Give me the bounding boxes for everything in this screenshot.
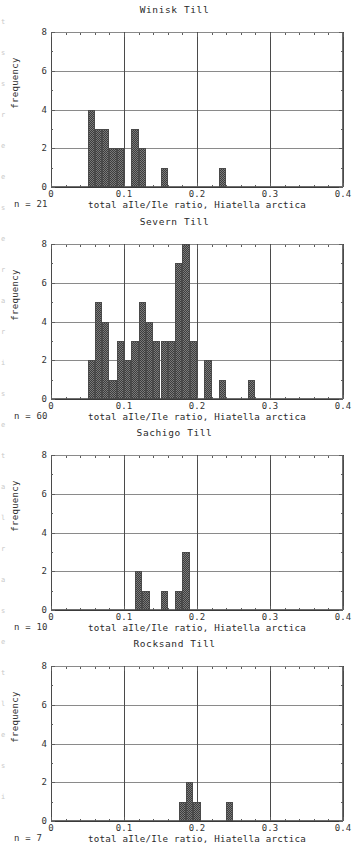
gridline-vertical <box>343 244 344 399</box>
x-tick-label: 0 <box>31 824 71 833</box>
x-tick-label: 0.4 <box>323 402 356 411</box>
x-tick-label: 0.1 <box>104 402 144 411</box>
y-tick-label: 2 <box>27 778 47 787</box>
histogram-bar <box>142 591 149 610</box>
histogram-bar <box>193 802 200 821</box>
y-tick-label: 8 <box>27 240 47 249</box>
plot-area: 0246800.10.20.30.4frequencytotal aIle/Il… <box>0 0 349 211</box>
y-tick-label: 2 <box>27 356 47 365</box>
gridline-vertical <box>343 666 344 821</box>
sample-size-label: n = 60 <box>14 411 48 421</box>
histogram-bar <box>146 322 153 400</box>
histogram-bar <box>248 380 255 399</box>
bar-series <box>51 244 343 399</box>
histogram-bar <box>182 552 189 610</box>
x-tick-label: 0.2 <box>177 613 217 622</box>
y-axis-title: frequency <box>10 48 20 118</box>
x-tick <box>343 395 344 399</box>
y-axis-title: frequency <box>10 471 20 541</box>
y-tick-label: 6 <box>27 490 47 499</box>
x-tick-label: 0.2 <box>177 190 217 199</box>
x-tick-label: 0.4 <box>323 190 356 199</box>
histogram-bar <box>124 360 131 399</box>
histogram-bar <box>102 129 109 187</box>
x-tick-label: 0.3 <box>250 613 290 622</box>
gridline-horizontal <box>51 187 343 188</box>
histogram-bar <box>175 591 182 610</box>
x-tick <box>343 245 344 249</box>
x-tick-label: 0.1 <box>104 613 144 622</box>
y-tick-label: 2 <box>27 144 47 153</box>
x-tick-label: 0 <box>31 402 71 411</box>
y-tick-label: 6 <box>27 701 47 710</box>
y-tick <box>339 821 343 822</box>
histogram-bar <box>226 802 233 821</box>
x-tick-label: 0.4 <box>323 824 356 833</box>
bar-series <box>51 666 343 821</box>
x-tick-label: 0.4 <box>323 613 356 622</box>
x-tick <box>343 33 344 37</box>
x-tick-label: 0.2 <box>177 402 217 411</box>
gridline-horizontal <box>51 610 343 611</box>
x-tick-label: 0.1 <box>104 824 144 833</box>
histogram-panel: Sachigo Till0246800.10.20.30.4frequencyt… <box>0 423 349 634</box>
y-tick-label: 4 <box>27 318 47 327</box>
y-tick <box>339 399 343 400</box>
histogram-bar <box>117 148 124 187</box>
gridline-horizontal <box>51 821 343 822</box>
y-tick <box>51 610 55 611</box>
plot-area: 0246800.10.20.30.4frequencytotal aIle/Il… <box>0 634 349 845</box>
histogram-bar <box>219 380 226 399</box>
gridline-horizontal <box>51 399 343 400</box>
sample-size-label: n = 10 <box>14 622 48 632</box>
plot-area: 0246800.10.20.30.4frequencytotal aIle/Il… <box>0 212 349 423</box>
sample-size-label: n = 7 <box>14 833 42 843</box>
y-axis-title: frequency <box>10 260 20 330</box>
y-tick-label: 8 <box>27 662 47 671</box>
plot-area: 0246800.10.20.30.4frequencytotal aIle/Il… <box>0 423 349 634</box>
histogram-bar <box>219 168 226 187</box>
x-tick <box>343 606 344 610</box>
x-tick-label: 0 <box>31 190 71 199</box>
x-axis-title: total aIle/Ile ratio, Hiatella arctica <box>51 199 343 210</box>
histogram-bar <box>95 302 102 399</box>
histogram-bar <box>109 148 116 187</box>
x-axis-title: total aIle/Ile ratio, Hiatella arctica <box>51 622 343 633</box>
x-axis-title: total aIle/Ile ratio, Hiatella arctica <box>51 411 343 422</box>
y-tick <box>339 187 343 188</box>
y-tick-label: 4 <box>27 740 47 749</box>
y-tick-label: 8 <box>27 28 47 37</box>
x-tick <box>343 183 344 187</box>
histogram-bar <box>186 782 193 821</box>
y-tick <box>339 610 343 611</box>
histogram-bar <box>88 360 95 399</box>
histogram-bar <box>135 571 142 610</box>
x-tick-label: 0.3 <box>250 190 290 199</box>
histogram-bar <box>161 591 168 610</box>
x-tick-label: 0.2 <box>177 824 217 833</box>
y-tick-label: 2 <box>27 567 47 576</box>
histogram-panel: Severn Till0246800.10.20.30.4frequencyto… <box>0 212 349 423</box>
y-tick-label: 4 <box>27 106 47 115</box>
histogram-bar <box>131 129 138 187</box>
y-tick-label: 8 <box>27 451 47 460</box>
sample-size-label: n = 21 <box>14 199 48 209</box>
y-tick-label: 4 <box>27 529 47 538</box>
histogram-bar <box>204 360 211 399</box>
histogram-bar <box>175 263 182 399</box>
histogram-bar <box>153 341 160 399</box>
bar-series <box>51 32 343 187</box>
y-tick <box>51 821 55 822</box>
y-tick <box>51 187 55 188</box>
y-tick-label: 6 <box>27 279 47 288</box>
gridline-vertical <box>343 455 344 610</box>
histogram-bar <box>139 148 146 187</box>
histogram-bar <box>179 802 186 821</box>
histogram-bar <box>168 341 175 399</box>
histogram-bar <box>131 341 138 399</box>
x-tick-label: 0 <box>31 613 71 622</box>
histogram-bar <box>109 380 116 399</box>
x-tick <box>343 456 344 460</box>
histogram-bar <box>117 341 124 399</box>
